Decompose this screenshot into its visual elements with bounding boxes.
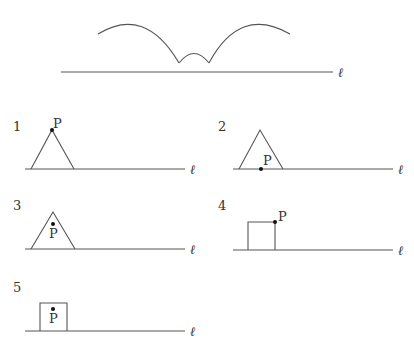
line-l-label-2: ℓ — [398, 162, 404, 177]
line-l-label-5: ℓ — [190, 324, 196, 339]
point-p-5-label: P — [49, 311, 58, 326]
triangle-1 — [31, 130, 74, 169]
square-4 — [248, 222, 275, 250]
point-p-3-label: P — [49, 226, 58, 241]
figure-1: 1 P ℓ — [13, 116, 196, 177]
figure-5-number: 5 — [13, 280, 21, 295]
figure-4: 4 P ℓ — [218, 198, 404, 258]
figure-1-number: 1 — [13, 119, 21, 134]
figure-2-number: 2 — [218, 119, 226, 134]
line-l-label-top: ℓ — [338, 65, 344, 80]
figure-2: 2 P ℓ — [218, 119, 404, 177]
small-arc-middle — [179, 54, 209, 64]
figure-3-number: 3 — [13, 198, 21, 213]
large-arc-right — [209, 24, 290, 63]
point-p-4 — [273, 220, 277, 224]
line-l-label-3: ℓ — [190, 242, 196, 257]
point-p-2-label: P — [263, 153, 272, 168]
point-p-1-label: P — [53, 116, 62, 131]
line-l-label-4: ℓ — [398, 243, 404, 258]
large-arc-left — [98, 24, 179, 63]
traced-path-figure: ℓ — [61, 24, 344, 80]
figure-4-number: 4 — [218, 198, 226, 213]
triangle-2 — [239, 130, 283, 169]
figure-5: 5 P ℓ — [13, 280, 196, 339]
point-p-4-label: P — [278, 209, 287, 224]
figure-3: 3 P ℓ — [13, 198, 196, 257]
diagram-canvas: ℓ 1 P ℓ 2 P ℓ 3 P ℓ 4 P ℓ 5 — [0, 0, 414, 351]
line-l-label-1: ℓ — [190, 162, 196, 177]
